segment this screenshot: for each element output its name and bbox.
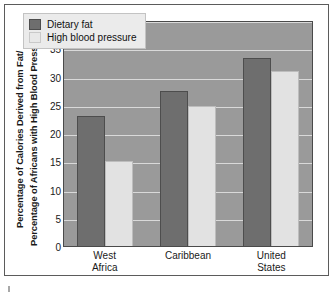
- x-category-label-line: United: [234, 250, 309, 262]
- bar: [77, 116, 105, 246]
- page-corner-mark: [8, 286, 10, 292]
- x-category-label-line: Caribbean: [150, 250, 225, 262]
- legend-item-dietary-fat: Dietary fat: [29, 18, 137, 31]
- x-category-label-line: States: [234, 262, 309, 274]
- bar: [271, 71, 299, 246]
- y-tick-label: 25: [50, 100, 61, 111]
- x-category-label: UnitedStates: [234, 250, 309, 280]
- bar-groups: [64, 22, 312, 246]
- x-category-label-line: West: [67, 250, 142, 262]
- bar-group: [151, 22, 225, 246]
- x-category-label-line: Africa: [67, 262, 142, 274]
- y-tick-label: 10: [50, 185, 61, 196]
- bar: [105, 161, 133, 246]
- y-tick-label: 30: [50, 72, 61, 83]
- plot-area: [63, 21, 313, 247]
- chart-legend: Dietary fat High blood pressure: [23, 13, 146, 49]
- bar-group: [233, 22, 307, 246]
- bar-group: [68, 22, 142, 246]
- dark-gray-swatch-icon: [29, 19, 41, 30]
- chart-figure: Percentage of Calories Derived from Fat/…: [4, 4, 329, 276]
- y-tick-label: 0: [55, 242, 61, 253]
- legend-item-high-blood-pressure: High blood pressure: [29, 31, 137, 44]
- bar: [188, 106, 216, 246]
- y-tick-label: 15: [50, 157, 61, 168]
- legend-label-dietary-fat: Dietary fat: [47, 19, 93, 30]
- x-axis-category-labels: WestAfricaCaribbeanUnitedStates: [63, 250, 313, 280]
- x-category-label: WestAfrica: [67, 250, 142, 280]
- y-axis-tick-labels: 0510152025303540: [41, 21, 63, 247]
- bar: [243, 58, 271, 246]
- y-tick-label: 20: [50, 129, 61, 140]
- light-gray-swatch-icon: [29, 32, 41, 43]
- y-tick-label: 5: [55, 213, 61, 224]
- bar: [160, 91, 188, 246]
- legend-label-high-blood-pressure: High blood pressure: [47, 32, 137, 43]
- x-category-label: Caribbean: [150, 250, 225, 280]
